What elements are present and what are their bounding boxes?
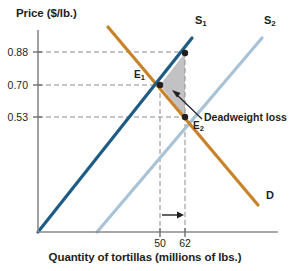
supply-demand-chart: Price ($/lb.) Quantity of tortillas (mil… bbox=[0, 0, 290, 271]
y-tick-label-088: 0.88 bbox=[0, 47, 28, 58]
equilibrium-e2-label-subscript: 2 bbox=[200, 124, 204, 133]
y-tick-label-053: 0.53 bbox=[0, 112, 28, 123]
x-axis-title: Quantity of tortillas (millions of lbs.) bbox=[0, 252, 290, 264]
equilibrium-e1-label: E1 bbox=[134, 70, 145, 80]
equilibrium-e1-label-subscript: 1 bbox=[141, 73, 145, 82]
quantity-shift-arrow bbox=[162, 212, 184, 219]
supply-curve-s2-label: S2 bbox=[264, 15, 276, 26]
equilibrium-e2-label: E2 bbox=[193, 121, 204, 131]
demand-curve-label: D bbox=[266, 190, 274, 201]
supply-curve-s1 bbox=[38, 38, 192, 232]
equilibrium-e1-label-text: E bbox=[134, 69, 141, 80]
point-e1 bbox=[157, 82, 163, 88]
point-e2 bbox=[182, 114, 188, 120]
point-s1-upper-vertex bbox=[182, 50, 188, 56]
y-tick-label-070: 0.70 bbox=[0, 80, 28, 91]
supply-curve-s1-label: S1 bbox=[195, 15, 207, 26]
x-tick-label-62: 62 bbox=[170, 238, 200, 249]
chart-canvas bbox=[0, 0, 290, 271]
equilibrium-e2-label-text: E bbox=[193, 120, 200, 131]
y-axis-title: Price ($/lb.) bbox=[16, 8, 77, 20]
supply-curve-s2-label-subscript: 2 bbox=[271, 19, 275, 28]
deadweight-loss-label: Deadweight loss bbox=[204, 112, 287, 123]
supply-curve-s1-label-subscript: 1 bbox=[202, 19, 206, 28]
